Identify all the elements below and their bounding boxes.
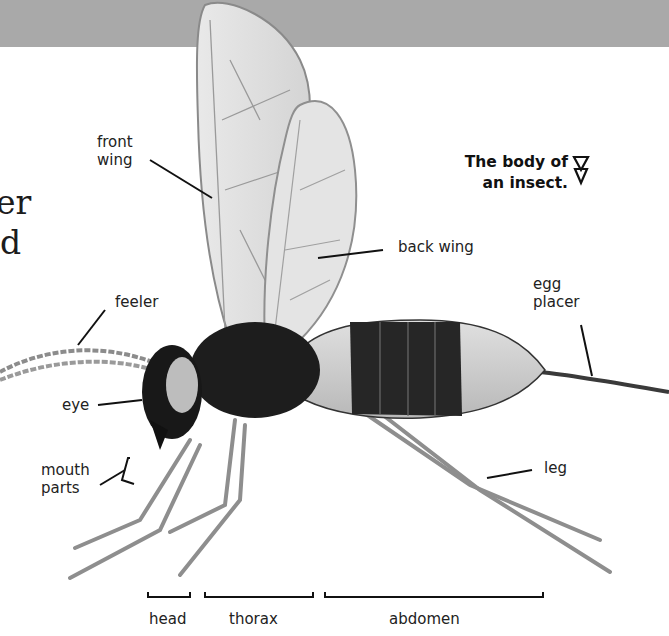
label-mouth-parts-line1: mouth — [41, 461, 90, 479]
label-front-wing-line2: wing — [97, 151, 133, 169]
label-leader-lines — [0, 0, 669, 636]
label-leg: leg — [544, 459, 567, 477]
label-back-wing: back wing — [398, 238, 474, 256]
label-front-wing-line1: front — [97, 133, 133, 151]
label-egg-placer-line2: placer — [533, 293, 580, 311]
section-label-head: head — [149, 610, 186, 628]
label-feeler: feeler — [115, 293, 158, 311]
label-mouth-parts: mouth parts — [41, 461, 90, 497]
label-front-wing: front wing — [97, 133, 133, 169]
label-mouth-parts-line2: parts — [41, 479, 90, 497]
section-label-abdomen: abdomen — [389, 610, 460, 628]
section-label-thorax: thorax — [229, 610, 278, 628]
label-egg-placer: egg placer — [533, 275, 580, 311]
label-egg-placer-line1: egg — [533, 275, 580, 293]
label-eye: eye — [62, 396, 89, 414]
